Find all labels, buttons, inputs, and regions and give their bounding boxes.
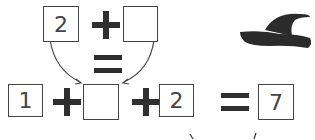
bottom-box-3: 2	[159, 84, 194, 117]
equals-icon	[94, 55, 122, 75]
top-right-box[interactable]	[123, 6, 158, 42]
plus-icon	[132, 88, 160, 116]
equals-icon	[221, 93, 249, 113]
plus-icon	[53, 88, 81, 116]
bottom-box-2[interactable]	[83, 84, 119, 120]
top-left-box: 2	[43, 6, 79, 42]
left-curve-arrow	[50, 40, 80, 82]
plus-icon	[92, 11, 120, 39]
result-box: 7	[258, 84, 294, 120]
right-curve-arrow	[124, 40, 154, 82]
bottom-box-1: 1	[8, 84, 43, 117]
witch-hat-icon	[240, 14, 311, 48]
